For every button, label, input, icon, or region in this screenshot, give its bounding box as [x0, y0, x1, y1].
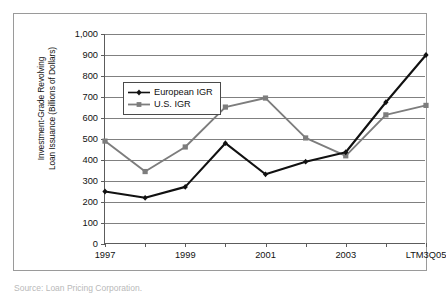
y-tick-label: 400	[82, 155, 98, 165]
legend-swatch-european	[128, 87, 150, 98]
series-layer	[105, 34, 426, 244]
data-point-marker	[303, 159, 308, 165]
legend-label-european: European IGR	[154, 87, 213, 97]
legend: European IGR U.S. IGR	[123, 82, 221, 115]
x-tick-label: 2003	[335, 250, 356, 260]
y-tick-label: 900	[82, 50, 98, 60]
chart-frame: Investment-Grade Revolving Loan Issuance…	[13, 13, 427, 271]
data-point-marker	[143, 195, 148, 201]
figure-caption: Source: Loan Pricing Corporation.	[14, 283, 142, 293]
series-european-igr	[102, 52, 428, 201]
legend-swatch-us	[128, 99, 150, 110]
data-point-marker	[263, 95, 268, 100]
y-tick-label: 300	[82, 176, 98, 186]
y-axis-title: Investment-Grade Revolving Loan Issuance…	[36, 9, 57, 209]
data-point-marker	[303, 135, 308, 140]
y-tick-label: 700	[82, 92, 98, 102]
data-point-marker	[423, 103, 428, 108]
y-tick-label: 0	[93, 239, 98, 249]
plot-area: 01002003004005006007008009001,000 199719…	[104, 34, 425, 244]
x-tick-label: 1999	[175, 250, 196, 260]
y-tick-label: 600	[82, 113, 98, 123]
x-tick-label: 1997	[95, 250, 116, 260]
legend-item-european: European IGR	[128, 86, 213, 98]
y-tick-label: 800	[82, 71, 98, 81]
y-tick-label: 200	[82, 197, 98, 207]
y-tick-label: 500	[82, 134, 98, 144]
x-tick-label: LTM3Q05	[406, 250, 446, 260]
data-point-marker	[223, 104, 228, 109]
y-tick-label: 100	[82, 218, 98, 228]
data-point-marker	[383, 112, 388, 117]
data-point-marker	[102, 189, 107, 195]
legend-item-us: U.S. IGR	[128, 98, 213, 110]
data-point-marker	[102, 139, 107, 144]
x-tick-label: 2001	[255, 250, 276, 260]
data-point-marker	[183, 144, 188, 149]
x-tick-mark	[426, 243, 427, 247]
y-tick-label: 1,000	[75, 29, 98, 39]
data-point-marker	[143, 169, 148, 174]
legend-label-us: U.S. IGR	[154, 99, 191, 109]
